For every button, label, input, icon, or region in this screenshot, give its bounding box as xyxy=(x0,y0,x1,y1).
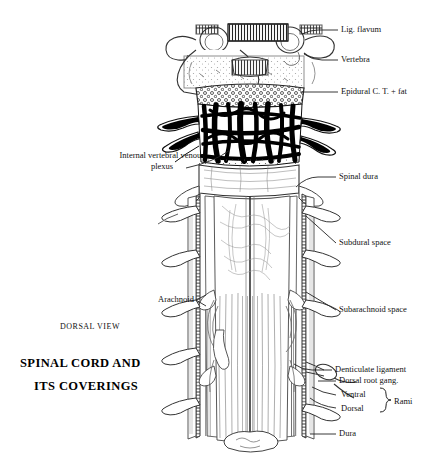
rami-brace xyxy=(380,388,391,412)
label-dura: Dura xyxy=(339,428,356,439)
label-lig-flavum: Lig. flavum xyxy=(341,24,381,35)
leader-ventral xyxy=(312,387,336,395)
label-rami: Rami xyxy=(394,396,412,407)
view-label: DORSAL VIEW xyxy=(60,322,120,331)
label-venous-plexus-line2: plexus xyxy=(108,161,216,172)
label-dorsal-ramus: Dorsal xyxy=(341,403,364,414)
figure-title-line1: SPINAL CORD AND xyxy=(20,356,141,371)
epidural-fat-band xyxy=(196,84,304,108)
label-subarachnoid-space: Subarachnoid space xyxy=(339,304,407,315)
label-venous-plexus-line1: Internal vertebral venous xyxy=(108,150,216,161)
label-spinal-dura: Spinal dura xyxy=(339,171,378,182)
label-arachnoid: Arachnoid xyxy=(158,294,194,305)
cord-termination xyxy=(224,431,278,452)
label-dorsal-root-ganglion: Dorsal root gang. xyxy=(339,375,398,386)
label-epidural-ct-fat: Epidural C. T. + fat xyxy=(341,86,407,97)
label-vertebra: Vertebra xyxy=(341,54,370,65)
label-denticulate-ligament: Denticulate ligament xyxy=(335,364,406,375)
label-subdural-space: Subdural space xyxy=(339,237,391,248)
leader-spinal-dura xyxy=(296,177,336,187)
spinal-cord-body xyxy=(214,196,290,443)
figure-canvas: Lig. flavum Vertebra Epidural C. T. + fa… xyxy=(0,0,434,463)
label-ventral-ramus: Ventral xyxy=(341,389,366,400)
figure-title-line2: ITS COVERINGS xyxy=(34,379,138,394)
